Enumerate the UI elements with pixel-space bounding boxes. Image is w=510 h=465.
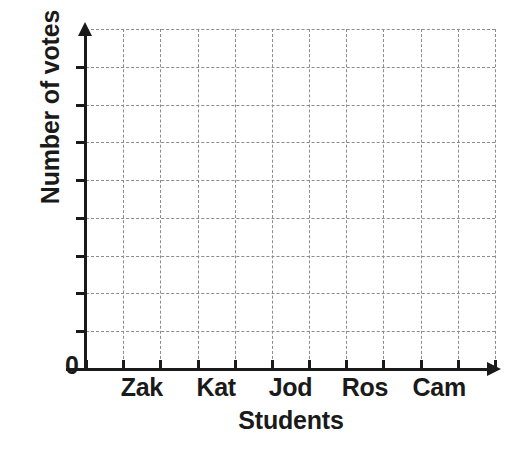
- grid-line-horizontal: [86, 180, 495, 181]
- x-axis-tick: [197, 360, 200, 371]
- grid-line-horizontal: [86, 67, 495, 68]
- y-axis-tick: [76, 66, 87, 69]
- x-axis-line: [66, 368, 488, 371]
- y-axis-tick: [76, 217, 87, 220]
- x-axis-category-label-kat: Kat: [196, 373, 235, 402]
- y-axis-tick: [76, 141, 87, 144]
- x-axis-tick: [494, 360, 497, 371]
- grid-line-vertical: [458, 29, 459, 369]
- grid-line-horizontal: [86, 293, 495, 294]
- x-axis-tick: [308, 360, 311, 371]
- grid-line-vertical: [495, 29, 496, 369]
- grid-line-vertical: [123, 29, 124, 369]
- y-axis-origin-label: 0: [55, 353, 79, 378]
- y-axis-tick: [76, 330, 87, 333]
- y-axis-arrow-icon: [78, 22, 92, 36]
- plot-area: [86, 29, 495, 369]
- x-axis-category-label-zak: Zak: [121, 373, 163, 402]
- y-axis-tick: [76, 292, 87, 295]
- grid-line-horizontal: [86, 256, 495, 257]
- x-axis-tick: [234, 360, 237, 371]
- grid-line-horizontal: [86, 29, 495, 30]
- x-axis-category-label-jod: Jod: [269, 373, 313, 402]
- grid-line-vertical: [198, 29, 199, 369]
- x-axis-tick: [271, 360, 274, 371]
- grid-line-horizontal: [86, 105, 495, 106]
- y-axis-tick: [76, 255, 87, 258]
- x-axis-category-label-ros: Ros: [342, 373, 388, 402]
- y-axis-line: [84, 33, 87, 370]
- x-axis-tick: [382, 360, 385, 371]
- x-axis-tick: [345, 360, 348, 371]
- x-axis-tick: [159, 360, 162, 371]
- y-axis-tick: [76, 104, 87, 107]
- grid-line-vertical: [235, 29, 236, 369]
- grid-line-horizontal: [86, 331, 495, 332]
- grid-line-vertical: [346, 29, 347, 369]
- x-axis-tick: [122, 360, 125, 371]
- x-axis-tick: [457, 360, 460, 371]
- grid-line-horizontal: [86, 142, 495, 143]
- grid-line-vertical: [272, 29, 273, 369]
- x-axis-tick: [420, 360, 423, 371]
- y-axis-title: Number of votes: [24, 0, 76, 287]
- y-axis-tick: [76, 179, 87, 182]
- grid-line-vertical: [421, 29, 422, 369]
- bar-chart-blank-template: 0 ZakKatJodRosCam Number of votes Studen…: [0, 0, 510, 465]
- x-axis-tick: [85, 360, 88, 371]
- grid-line-vertical: [309, 29, 310, 369]
- grid-line-vertical: [383, 29, 384, 369]
- x-axis-category-label-cam: Cam: [413, 373, 466, 402]
- grid-line-horizontal: [86, 218, 495, 219]
- grid-line-vertical: [160, 29, 161, 369]
- x-axis-title: Students: [86, 406, 496, 435]
